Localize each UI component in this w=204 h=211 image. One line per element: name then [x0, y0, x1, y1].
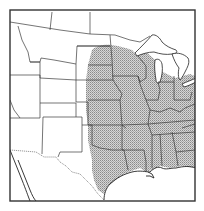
baja-coastline — [18, 160, 36, 201]
mississippi-delta — [146, 172, 154, 178]
lake-superior — [135, 35, 177, 56]
range-map-svg — [0, 0, 204, 211]
canada-border — [10, 22, 150, 42]
pacific-coastline — [10, 150, 30, 201]
range-map — [0, 0, 204, 211]
